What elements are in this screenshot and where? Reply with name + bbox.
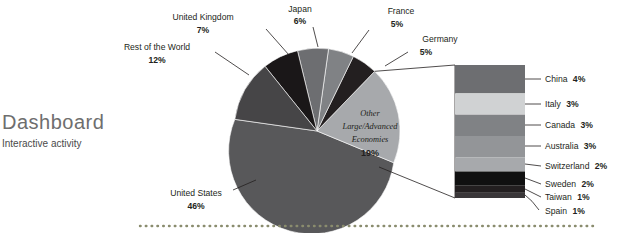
infographic-canvas: Dashboard Interactive activity	[0, 0, 634, 233]
legend-label-italy[interactable]: Italy 3%	[545, 99, 579, 109]
pie-label-rest-of-the-world-value: 12%	[148, 55, 166, 65]
legend-label-china[interactable]: China 4%	[545, 74, 586, 84]
legend-label-taiwan[interactable]: Taiwan 1%	[545, 192, 590, 202]
breakout-legend-leaders	[525, 79, 541, 210]
bar-segment-taiwan[interactable]	[455, 186, 525, 193]
pie-label-france-value: 5%	[391, 19, 404, 29]
bar-segment-spain[interactable]	[455, 193, 525, 198]
pie-label-germany-name: Germany	[422, 34, 458, 44]
pie-label-rest-of-the-world-name: Rest of the World	[124, 42, 190, 52]
pie-label-other-value: 19%	[361, 148, 379, 158]
legend-label-spain[interactable]: Spain 1%	[545, 206, 585, 216]
pie-label-other-line3: Economies	[351, 135, 389, 144]
pie-label-united-kingdom-name: United Kingdom	[172, 12, 233, 22]
bar-segment-italy[interactable]	[455, 93, 525, 114]
pie-label-france-name: France	[388, 6, 415, 16]
pie-label-other-line1: Other	[360, 109, 380, 118]
pie-chart-figure: China 4% Italy 3% Canada 3% Australia 3%…	[0, 0, 634, 233]
legend-label-canada[interactable]: Canada 3%	[545, 120, 593, 130]
legend-label-sweden[interactable]: Sweden 2%	[545, 179, 594, 189]
bar-segment-canada[interactable]	[455, 115, 525, 136]
breakout-legend: China 4% Italy 3% Canada 3% Australia 3%…	[545, 74, 608, 216]
legend-label-switzerland[interactable]: Switzerland 2%	[545, 161, 608, 171]
pie-label-united-states-value: 46%	[187, 201, 205, 211]
pie-label-united-kingdom-value: 7%	[197, 25, 210, 35]
pie-label-germany-value: 5%	[420, 47, 433, 57]
pie-label-united-states-name: United States	[170, 188, 222, 198]
bar-segment-china[interactable]	[455, 65, 525, 93]
legend-label-australia[interactable]: Australia 3%	[545, 141, 597, 151]
pie-label-other-line2: Large/Advanced	[341, 122, 398, 131]
pie-label-japan-value: 6%	[294, 16, 307, 26]
bar-segment-australia[interactable]	[455, 136, 525, 157]
breakout-stacked-bar	[455, 65, 525, 198]
bar-segment-switzerland[interactable]	[455, 157, 525, 171]
bar-segment-sweden[interactable]	[455, 172, 525, 186]
pie-label-japan-name: Japan	[288, 4, 312, 14]
